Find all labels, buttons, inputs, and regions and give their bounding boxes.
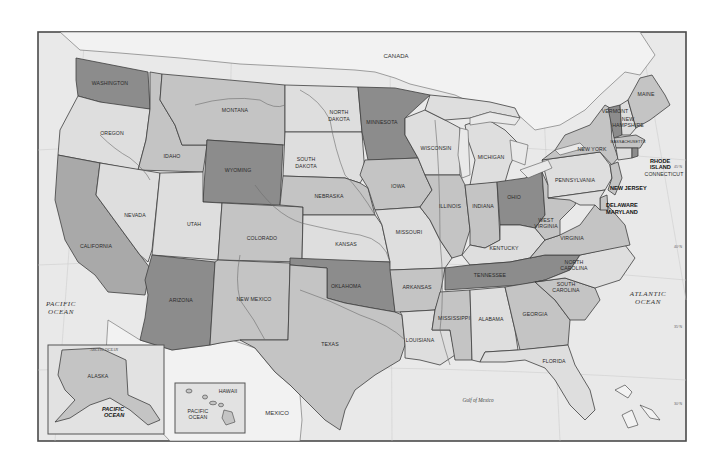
- label-connecticut: CONNECTICUT: [645, 171, 685, 177]
- label-wyoming: WYOMING: [225, 167, 252, 173]
- label-mexico: MEXICO: [265, 410, 289, 416]
- label-florida: FLORIDA: [542, 358, 566, 364]
- hawaii-inset: HAWAII PACIFIC OCEAN: [175, 383, 245, 433]
- state-rhode-island[interactable]: [632, 148, 638, 158]
- label-alabama: ALABAMA: [478, 316, 504, 322]
- label-illinois: ILLINOIS: [439, 203, 462, 209]
- label-california: CALIFORNIA: [80, 243, 113, 249]
- state-connecticut[interactable]: [616, 148, 632, 160]
- tick-lat: 45°N: [674, 165, 682, 169]
- label-minnesota: MINNESOTA: [366, 119, 398, 125]
- label-maryland: MARYLAND: [606, 209, 638, 215]
- state-north-dakota[interactable]: [285, 85, 362, 132]
- label-vermont: VERMONT: [602, 108, 629, 114]
- label-kansas: KANSAS: [335, 241, 357, 247]
- tick-lat: 40°N: [674, 245, 682, 249]
- label-louisiana: LOUISIANA: [406, 337, 435, 343]
- label-indiana: INDIANA: [472, 203, 494, 209]
- label-north-carolina-2: CAROLINA: [560, 265, 588, 271]
- label-maine: MAINE: [638, 91, 655, 97]
- label-atlantic-ocean-1: ATLANTIC: [629, 290, 666, 298]
- label-massachusetts: MASSACHUSETTS: [610, 140, 645, 144]
- label-pacific-ocean-2: OCEAN: [48, 308, 74, 316]
- label-alaska-pacific-2: OCEAN: [104, 412, 125, 418]
- label-georgia: GEORGIA: [523, 311, 548, 317]
- label-alaska: ALASKA: [88, 373, 109, 379]
- label-atlantic-ocean-2: OCEAN: [635, 298, 661, 306]
- label-arctic-ocean: ARCTIC OCEAN: [89, 347, 118, 352]
- tick-lat: 30°N: [674, 402, 682, 406]
- label-kentucky: KENTUCKY: [489, 245, 518, 251]
- state-new-mexico[interactable]: [210, 260, 290, 345]
- label-montana: MONTANA: [222, 107, 249, 113]
- label-oklahoma: OKLAHOMA: [331, 283, 362, 289]
- label-colorado: COLORADO: [247, 235, 278, 241]
- label-idaho: IDAHO: [164, 153, 181, 159]
- label-nevada: NEVADA: [124, 212, 146, 218]
- label-canada: CANADA: [383, 53, 408, 59]
- label-wisconsin: WISCONSIN: [421, 145, 452, 151]
- label-new-jersey: NEW JERSEY: [610, 185, 647, 191]
- label-delaware: DELAWARE: [606, 202, 638, 208]
- state-colorado[interactable]: [218, 203, 303, 262]
- label-missouri: MISSOURI: [396, 229, 422, 235]
- state-kansas[interactable]: [302, 215, 390, 262]
- alaska-inset: ALASKA ARCTIC OCEAN PACIFIC OCEAN: [48, 345, 164, 434]
- label-ohio: OHIO: [507, 194, 521, 200]
- label-texas: TEXAS: [321, 341, 339, 347]
- label-new-mexico: NEW MEXICO: [236, 296, 271, 302]
- label-north-dakota-1: NORTH: [330, 109, 349, 115]
- label-arizona: ARIZONA: [169, 297, 193, 303]
- state-south-dakota[interactable]: [283, 132, 365, 183]
- label-hawaii-pacific-2: OCEAN: [189, 414, 208, 420]
- label-nebraska: NEBRASKA: [314, 193, 343, 199]
- label-pennsylvania: PENNSYLVANIA: [555, 177, 596, 183]
- label-virginia: VIRGINIA: [560, 235, 584, 241]
- label-tennessee: TENNESSEE: [474, 272, 507, 278]
- label-pacific-ocean-1: PACIFIC: [45, 300, 76, 308]
- label-hawaii: HAWAII: [219, 388, 238, 394]
- label-gulf-of-mexico: Gulf of Mexico: [462, 397, 494, 403]
- label-new-york: NEW YORK: [578, 146, 607, 152]
- us-states-map: 125°W 120°W 115°W 110°W 105°W 100°W 95°W…: [0, 0, 720, 473]
- label-rhode-island-2: ISLAND: [650, 164, 671, 170]
- tick-lat: 35°N: [674, 325, 682, 329]
- label-south-dakota-1: SOUTH: [297, 156, 316, 162]
- label-washington: WASHINGTON: [92, 80, 129, 86]
- label-iowa: IOWA: [391, 183, 405, 189]
- label-mississippi: MISSISSIPPI: [438, 315, 470, 321]
- label-oregon: OREGON: [100, 130, 124, 136]
- label-utah: UTAH: [187, 221, 201, 227]
- state-indiana[interactable]: [465, 182, 500, 248]
- label-north-dakota-2: DAKOTA: [328, 116, 350, 122]
- label-arkansas: ARKANSAS: [402, 284, 431, 290]
- label-south-dakota-2: DAKOTA: [295, 163, 317, 169]
- label-south-carolina-2: CAROLINA: [552, 287, 580, 293]
- label-west-virginia-2: VIRGINIA: [534, 223, 558, 229]
- label-new-hampshire-2: HAMPSHIRE: [612, 122, 644, 128]
- label-michigan: MICHIGAN: [478, 154, 505, 160]
